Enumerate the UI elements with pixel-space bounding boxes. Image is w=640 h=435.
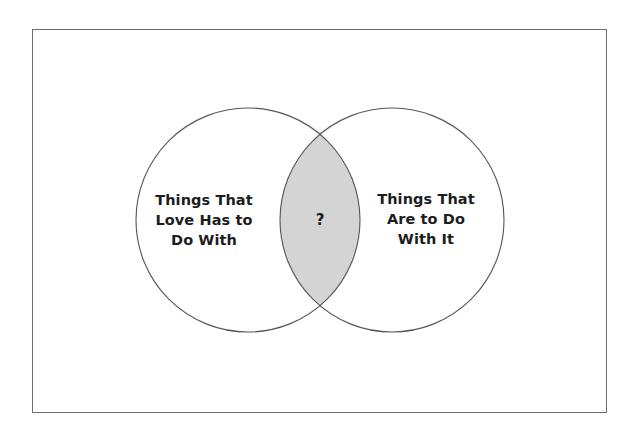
- venn-diagram-page: Things That Love Has to Do With Things T…: [0, 0, 640, 435]
- venn-label-left: Things That Love Has to Do With: [129, 190, 279, 250]
- diagram-frame: Things That Love Has to Do With Things T…: [32, 29, 607, 413]
- venn-overlap-question-mark: ?: [316, 211, 325, 229]
- venn-label-right: Things That Are to Do With It: [356, 189, 496, 249]
